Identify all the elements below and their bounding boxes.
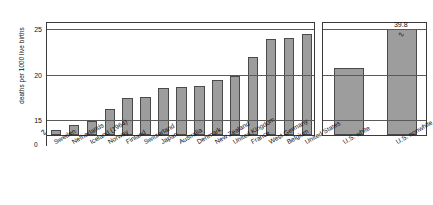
y-axis-tick-15: 15 [34,117,42,124]
y-axis-tick-20: 20 [34,71,42,78]
bar-u-s-nonwhite [387,29,417,135]
bar-australia [176,87,186,135]
y-axis-label: deaths per 1000 live births [18,14,25,118]
gridline-25 [47,29,314,30]
y-axis-tick-group: 152025 [26,0,42,205]
y-axis-zero-label: 0 [34,142,38,149]
gridline-20 [47,75,314,76]
us-bar-group [323,23,426,135]
infant-mortality-bar-chart: deaths per 1000 live births 152025 ∿ 0 S… [0,0,433,205]
y-axis-tick-25: 25 [34,26,42,33]
bar-value-label: 39.8 [380,21,422,28]
gridline-20 [323,75,426,76]
